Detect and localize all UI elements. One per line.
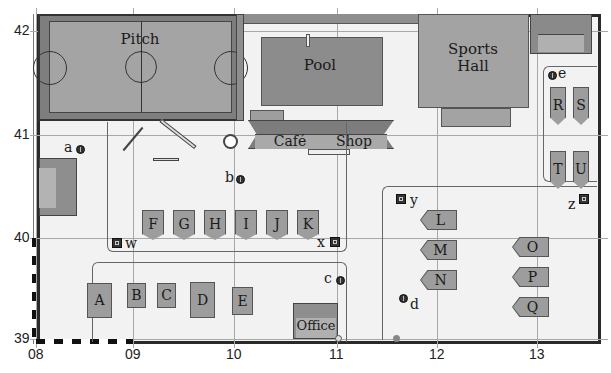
pitch-left-arc [33, 51, 67, 85]
pitch-c[interactable]: C [157, 283, 176, 308]
sports-hall-label-2: Hall [440, 57, 506, 75]
pitch-n-label: N [421, 271, 456, 289]
pitch-d[interactable]: D [190, 282, 215, 318]
point-z-label: z [568, 196, 575, 212]
sports-hall-label-1: Sports [440, 40, 506, 58]
point-x-label: x [317, 234, 325, 250]
pool-ladder-icon [306, 34, 310, 47]
point-a-marker[interactable] [76, 145, 85, 154]
y-tick-42: 42 [14, 22, 30, 38]
pitch-m-label: M [421, 241, 456, 259]
point-y-label: y [410, 192, 418, 208]
point-y-marker[interactable] [396, 194, 406, 204]
office-label: Office [294, 318, 338, 333]
pitch-j[interactable]: J [266, 210, 288, 240]
pitch-label: Pitch [110, 30, 170, 48]
pitch-f[interactable]: F [142, 210, 164, 240]
pitch-e[interactable]: E [232, 287, 253, 315]
pitch-a[interactable]: A [87, 283, 112, 318]
roundabout-icon [223, 134, 238, 149]
pitch-l-label: L [421, 211, 456, 229]
west-strip [236, 14, 244, 121]
x-tick-10: 10 [226, 346, 242, 362]
pitch-k[interactable]: K [297, 210, 319, 240]
pitch-u[interactable]: U [573, 151, 589, 189]
point-d-label: d [410, 296, 419, 312]
seesaw-icon [153, 158, 179, 161]
pitch-p[interactable]: P [512, 267, 549, 287]
point-b-label: b [225, 169, 234, 185]
point-d-marker[interactable] [399, 294, 408, 303]
pitch-o-label: O [513, 238, 548, 256]
point-c-marker[interactable] [336, 276, 345, 285]
x-tick-13: 13 [529, 346, 545, 362]
entrance-gate-right [393, 335, 400, 342]
path-enclosure-east [382, 186, 597, 340]
point-e-marker[interactable] [548, 71, 557, 80]
pitch-s[interactable]: S [573, 87, 589, 125]
y-tick-40: 40 [14, 229, 30, 245]
ne-building-roof [538, 34, 584, 52]
pitch-t[interactable]: T [550, 151, 566, 189]
pitch-h[interactable]: H [204, 210, 226, 240]
x-tick-08: 08 [28, 346, 44, 362]
y-tick-39: 39 [14, 330, 30, 346]
pitch-p-label: P [513, 268, 548, 286]
point-a-label: a [64, 139, 72, 155]
pool-label: Pool [290, 56, 350, 74]
north-strip [242, 14, 420, 24]
west-building-face [39, 168, 56, 208]
point-c-label: c [324, 270, 332, 286]
pitch-l[interactable]: L [420, 210, 457, 230]
entrance-gate-left [335, 335, 342, 342]
pitch-g[interactable]: G [173, 210, 195, 240]
pitch-m[interactable]: M [420, 240, 457, 260]
point-x-marker[interactable] [330, 237, 340, 247]
point-w-marker[interactable] [112, 238, 122, 248]
point-z-marker[interactable] [579, 194, 589, 204]
point-e-label: e [558, 65, 566, 81]
pitch-r[interactable]: R [550, 87, 566, 125]
pitch-q-label: Q [513, 298, 548, 316]
y-tick-41: 41 [14, 126, 30, 142]
scale-bar-left [32, 238, 36, 339]
pitch-b[interactable]: B [127, 283, 146, 308]
pitch-i[interactable]: I [235, 210, 257, 240]
x-tick-11: 11 [329, 346, 344, 362]
point-b-marker[interactable] [236, 175, 245, 184]
pitch-q[interactable]: Q [512, 297, 549, 317]
sports-hall-annex [441, 108, 511, 127]
pitch-center-circle [125, 51, 157, 83]
pitch-o[interactable]: O [512, 237, 549, 257]
point-w-label: w [125, 235, 137, 251]
x-tick-12: 12 [429, 346, 445, 362]
x-tick-09: 09 [125, 346, 141, 362]
pitch-n[interactable]: N [420, 270, 457, 290]
